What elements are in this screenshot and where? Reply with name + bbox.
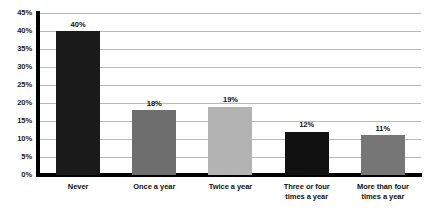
y-axis-tick-25: 25% [0,81,32,89]
bar[interactable] [132,110,176,175]
y-axis-tick-labels: 0%5%10%15%20%25%30%35%40%45% [0,0,32,213]
y-axis-tick-45: 45% [0,9,32,17]
bar[interactable] [208,107,252,175]
y-axis-tick-35: 35% [0,45,32,53]
bar-value-label: 19% [208,96,252,104]
bar-group: 40% [40,13,116,175]
bar-series: 40%18%19%12%11% [40,13,421,175]
bar-group: 19% [192,13,268,175]
bar-value-label: 12% [285,121,329,129]
x-axis-label-4: More than fourtimes a year [345,182,421,201]
bar-value-label: 40% [56,21,100,29]
bar-chart: 0%5%10%15%20%25%30%35%40%45% 40%18%19%12… [0,0,427,213]
bar-value-label: 18% [132,100,176,108]
bar[interactable] [285,132,329,175]
y-axis-tick-20: 20% [0,99,32,107]
y-axis-tick-40: 40% [0,27,32,35]
bar[interactable] [361,135,405,175]
bar-group: 11% [345,13,421,175]
bar-group: 12% [269,13,345,175]
bar[interactable] [56,31,100,175]
x-axis-label-2: Twice a year [192,182,268,192]
x-axis-category-labels: NeverOnce a yearTwice a yearThree or fou… [40,182,421,212]
y-axis-tick-0: 0% [0,171,32,179]
x-axis-label-1: Once a year [116,182,192,192]
y-axis-tick-15: 15% [0,117,32,125]
bar-value-label: 11% [361,125,405,133]
x-axis-label-0: Never [40,182,116,192]
y-axis-tick-10: 10% [0,135,32,143]
x-axis-label-3: Three or fourtimes a year [269,182,345,201]
y-axis-tick-30: 30% [0,63,32,71]
bar-group: 18% [116,13,192,175]
y-axis-tick-5: 5% [0,153,32,161]
